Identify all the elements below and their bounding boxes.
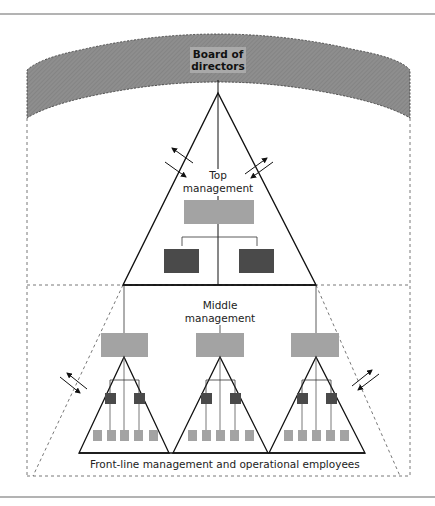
top-management-label: Top management [178, 169, 258, 195]
middle-management-box-left [101, 333, 148, 357]
frontline-label: Front-line management and operational em… [90, 458, 355, 471]
top-management-subbox-left [164, 249, 199, 273]
frontline-group-right [269, 357, 365, 453]
frontline-group-center [173, 357, 268, 453]
middle-management-box-center [196, 333, 244, 357]
frontline-group-left [79, 357, 169, 453]
board-of-directors-label: Board of directors [190, 47, 246, 73]
org-hierarchy-diagram [0, 0, 435, 506]
top-management-subbox-right [239, 249, 274, 273]
exchange-arrows-lower-right [352, 370, 379, 390]
middle-management-label: Middle management [180, 299, 260, 325]
middle-management-box-right [291, 333, 339, 357]
top-management-box [184, 200, 254, 224]
